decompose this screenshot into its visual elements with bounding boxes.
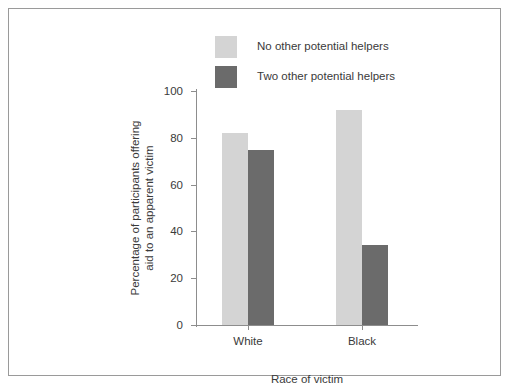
figure: No other potential helpers Two other pot… [0, 0, 511, 386]
y-axis-title-line2: aid to an apparent victim [142, 91, 156, 325]
bar-white-no-other-helpers [222, 133, 248, 325]
y-tick-label: 100 [164, 85, 183, 97]
legend: No other potential helpers Two other pot… [215, 35, 455, 95]
x-tick [362, 325, 363, 330]
x-axis-title: Race of victim [196, 373, 418, 385]
y-tick: 80 [191, 138, 196, 139]
legend-swatch-light [215, 36, 237, 58]
y-tick: 20 [191, 278, 196, 279]
bar-black-no-other-helpers [336, 110, 362, 325]
y-tick: 40 [191, 231, 196, 232]
plot-area: 020406080100 WhiteBlack [196, 91, 418, 325]
legend-label-no-other-helpers: No other potential helpers [257, 41, 389, 53]
y-tick-label: 20 [170, 272, 183, 284]
y-tick-label: 60 [170, 179, 183, 191]
bar-white-two-other-helpers [248, 150, 274, 326]
bar-black-two-other-helpers [362, 245, 388, 325]
legend-item-two-other-helpers: Two other potential helpers [215, 65, 455, 89]
y-axis-title-line1: Percentage of participants offering [128, 91, 142, 325]
x-axis-line [196, 325, 418, 326]
x-tick-label-black: Black [348, 335, 376, 347]
legend-swatch-dark [215, 66, 237, 88]
y-tick: 60 [191, 185, 196, 186]
chart-frame: No other potential helpers Two other pot… [8, 8, 501, 376]
x-tick [248, 325, 249, 330]
y-tick-label: 0 [177, 319, 183, 331]
y-tick-label: 80 [170, 132, 183, 144]
y-axis-title: Percentage of participants offering aid … [128, 91, 158, 325]
y-axis-line [196, 89, 197, 327]
y-tick-label: 40 [170, 225, 183, 237]
y-tick: 100 [191, 91, 196, 92]
x-tick-label-white: White [233, 335, 262, 347]
y-tick: 0 [191, 325, 196, 326]
legend-label-two-other-helpers: Two other potential helpers [257, 71, 395, 83]
legend-item-no-other-helpers: No other potential helpers [215, 35, 455, 59]
